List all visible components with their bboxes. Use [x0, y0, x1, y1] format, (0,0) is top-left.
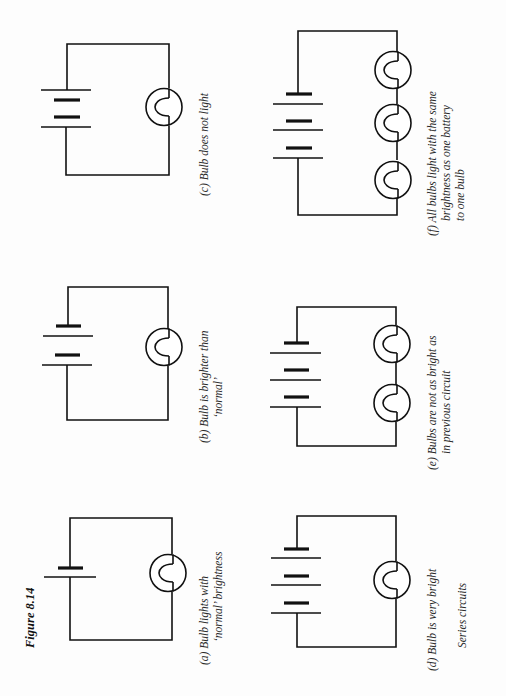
bulb-icon: [375, 105, 411, 142]
caption-a-line2: ‘normal’ brightness: [212, 551, 225, 642]
battery-icon: [42, 326, 93, 365]
caption-a-line1: (a) Bulb lights with: [198, 576, 211, 665]
wire: [67, 365, 168, 420]
bulb-icon: [150, 555, 186, 592]
figure-title: Figure 8.14: [23, 588, 37, 649]
circuit-b: [42, 287, 182, 420]
bulb-icon: [146, 89, 182, 126]
caption-f-line1: (f) All bulbs light with the same: [426, 91, 439, 236]
battery-icon: [271, 549, 321, 613]
battery-icon: [273, 94, 323, 158]
circuit-d: [271, 516, 410, 647]
wire: [297, 516, 396, 561]
caption-d-line1: (d) Bulb is very bright: [426, 568, 439, 671]
caption-e-line2: in previous circuit: [440, 370, 453, 454]
circuit-f: [273, 31, 411, 215]
figure-8-14-page: Figure 8.14 (c) Bulb does not light (b) …: [0, 0, 506, 696]
figure-subtitle: Series circuits: [456, 582, 468, 648]
caption-b-line2: ‘normal’: [212, 377, 224, 418]
caption-c-line1: (c) Bulb does not light: [198, 92, 211, 196]
circuit-c: [41, 44, 182, 175]
caption-b-line1: (b) Bulb is brighter than: [198, 330, 211, 443]
bulb-icon: [146, 329, 182, 366]
wire: [66, 126, 169, 175]
wire: [67, 44, 169, 90]
caption-e-line1: (e) Bulbs are not as bright as: [426, 335, 439, 470]
caption-f-line2: brightness as one battery: [440, 104, 453, 221]
battery-icon: [270, 343, 321, 407]
battery-icon: [44, 568, 96, 577]
bulb-icon: [374, 326, 410, 363]
bulb-icon: [374, 562, 410, 599]
circuit-a: [44, 518, 186, 640]
battery-icon: [41, 90, 91, 127]
wire: [297, 599, 396, 647]
caption-f-line3: to one bulb: [454, 169, 466, 221]
bulb-icon: [374, 385, 410, 422]
bulb-icon: [375, 52, 411, 89]
wire: [68, 287, 168, 329]
circuit-e: [270, 307, 410, 446]
bulb-icon: [375, 162, 411, 199]
